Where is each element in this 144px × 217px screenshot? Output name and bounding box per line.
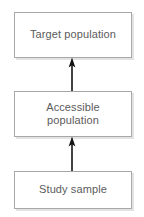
node-study-sample: Study sample <box>14 171 132 209</box>
node-target-population-label: Target population <box>26 28 120 42</box>
edge-accessible-to-target <box>69 58 76 92</box>
node-study-sample-label: Study sample <box>35 183 111 197</box>
node-target-population: Target population <box>14 12 132 58</box>
arrow-head-accessible-to-target <box>69 58 76 68</box>
node-accessible-population: Accessible population <box>14 91 132 137</box>
sampling-hierarchy-diagram: Target population Accessible population … <box>0 0 144 217</box>
node-accessible-population-label: Accessible population <box>42 101 104 128</box>
arrow-head-study-to-accessible <box>69 137 76 147</box>
edge-study-to-accessible <box>69 137 76 172</box>
